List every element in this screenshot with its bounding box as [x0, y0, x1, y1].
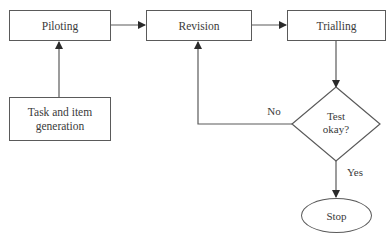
node-piloting: Piloting	[9, 10, 111, 41]
node-trialling: Trialling	[287, 10, 386, 41]
node-stop: Stop	[301, 198, 372, 233]
edge-label-no: No	[264, 105, 284, 118]
node-task-generation-line1: Task and item	[28, 105, 92, 119]
node-stop-label: Stop	[326, 210, 346, 222]
node-decision-label: Test okay?	[306, 110, 366, 136]
decision-line2: okay?	[306, 123, 366, 136]
node-task-generation-line2: generation	[36, 119, 85, 133]
node-trialling-label: Trialling	[317, 19, 357, 33]
edge-label-yes: Yes	[343, 166, 367, 179]
node-revision-label: Revision	[179, 19, 220, 33]
node-task-generation: Task and item generation	[9, 97, 111, 141]
node-revision: Revision	[146, 10, 252, 41]
decision-line1: Test	[306, 110, 366, 123]
node-piloting-label: Piloting	[42, 19, 78, 33]
